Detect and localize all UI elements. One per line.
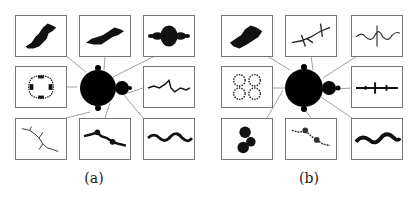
julia-thumb-bottom-left xyxy=(15,118,67,160)
mandelbrot-set-b xyxy=(279,62,343,114)
caption-a: (a) xyxy=(64,170,124,186)
julia-thumb-middle-left xyxy=(15,66,67,108)
julia-thumb-middle-left xyxy=(221,66,273,108)
julia-thumb-top-right xyxy=(143,15,195,57)
julia-thumb-top-left xyxy=(221,15,273,57)
caption-b: (b) xyxy=(279,170,339,186)
julia-thumb-bottom-left xyxy=(221,118,273,160)
julia-thumb-bottom-right xyxy=(143,118,195,160)
panel-a: (a) xyxy=(0,0,209,197)
julia-thumb-bottom-center xyxy=(79,118,131,160)
julia-thumb-top-right xyxy=(351,15,403,57)
julia-thumb-bottom-center xyxy=(285,118,337,160)
julia-thumb-top-center xyxy=(79,15,131,57)
julia-thumb-top-center xyxy=(285,15,337,57)
mandelbrot-set-a xyxy=(74,62,134,114)
julia-thumb-middle-right xyxy=(351,66,403,108)
julia-thumb-top-left xyxy=(15,15,67,57)
julia-thumb-middle-right xyxy=(143,66,195,108)
julia-thumb-bottom-right xyxy=(351,118,403,160)
panel-b: (b) xyxy=(207,0,416,197)
